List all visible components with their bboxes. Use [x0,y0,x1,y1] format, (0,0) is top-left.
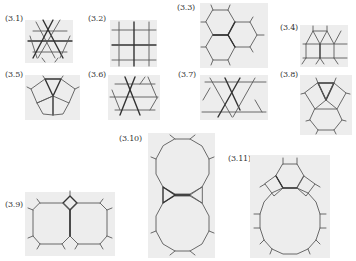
truncated-trihexagonal-tiling-diagram [0,0,356,261]
